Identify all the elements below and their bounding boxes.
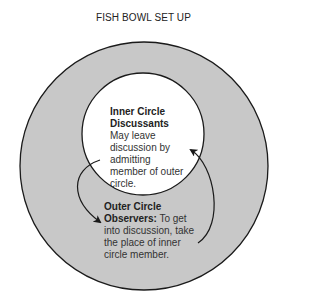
outer-desc-2: the place of inner	[104, 237, 216, 249]
outer-desc-0: To get	[157, 213, 187, 224]
inner-heading-1: Inner Circle	[110, 106, 202, 118]
inner-desc-4: member of outer	[110, 166, 202, 178]
outer-line-2: Observers: To get	[104, 213, 216, 225]
outer-heading-2: Observers:	[104, 213, 157, 224]
inner-desc-1: May leave	[110, 130, 202, 142]
inner-desc-3: admitting	[110, 154, 202, 166]
outer-circle-label: Outer Circle Observers: To get into disc…	[104, 201, 216, 261]
outer-desc-1: into discussion, take	[104, 225, 216, 237]
outer-heading-1: Outer Circle	[104, 201, 216, 213]
inner-heading-2: Discussants	[110, 118, 202, 130]
inner-desc-2: discussion by	[110, 142, 202, 154]
inner-circle-label: Inner Circle Discussants May leave discu…	[110, 106, 202, 190]
outer-desc-3: circle member.	[104, 249, 216, 261]
inner-desc-5: circle.	[110, 178, 202, 190]
